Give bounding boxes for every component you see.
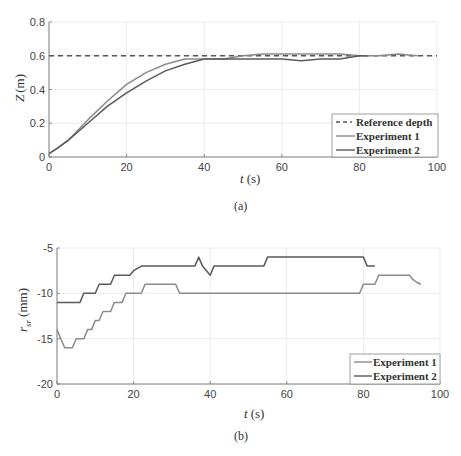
y-tick-label: 0.4 xyxy=(30,84,45,96)
chart-b-xlabel: t(s) xyxy=(244,406,264,421)
legend-experiment-2: Experiment 2 xyxy=(356,144,420,156)
y-tick-label: -15 xyxy=(37,333,53,345)
chart-a-caption: (a) xyxy=(234,199,247,213)
x-tick-label: 100 xyxy=(431,388,449,400)
chart-b-caption: (b) xyxy=(234,429,248,443)
legend-experiment-1: Experiment 1 xyxy=(373,356,437,368)
series-experiment-2 xyxy=(57,257,375,302)
x-tick-label: 20 xyxy=(120,161,132,173)
y-tick-label: 0.6 xyxy=(30,50,45,62)
legend-experiment-1: Experiment 1 xyxy=(356,130,420,142)
x-tick-label: 0 xyxy=(46,161,52,173)
x-tick-label: 100 xyxy=(428,161,446,173)
chart-a-legend: Reference depth Experiment 1 Experiment … xyxy=(332,114,438,157)
y-tick-label: 0.8 xyxy=(30,16,45,28)
chart-a-xlabel: t(s) xyxy=(240,171,260,186)
chart-b-legend: Experiment 1 Experiment 2 xyxy=(350,354,440,384)
x-tick-label: 40 xyxy=(198,161,210,173)
series-experiment-1 xyxy=(57,275,421,348)
figure: 02040608010000.20.40.60.8 t(s) Z(m) (a) … xyxy=(0,0,461,456)
x-tick-label: 60 xyxy=(276,161,288,173)
x-tick-label: 80 xyxy=(357,388,369,400)
chart-b-ylabel: rsr(mm) xyxy=(15,288,33,332)
x-tick-label: 80 xyxy=(353,161,365,173)
x-tick-label: 40 xyxy=(204,388,216,400)
series-experiment-2 xyxy=(49,56,367,154)
y-tick-label: 0 xyxy=(39,151,45,163)
chart-a-ylabel: Z(m) xyxy=(12,74,27,102)
legend-reference-depth: Reference depth xyxy=(356,116,432,128)
y-tick-label: -5 xyxy=(43,242,53,254)
legend-experiment-2: Experiment 2 xyxy=(373,370,437,382)
y-tick-label: -10 xyxy=(37,287,53,299)
x-tick-label: 60 xyxy=(281,388,293,400)
x-tick-label: 20 xyxy=(127,388,139,400)
y-tick-label: -20 xyxy=(37,378,53,390)
y-tick-label: 0.2 xyxy=(30,117,45,129)
x-tick-label: 0 xyxy=(54,388,60,400)
